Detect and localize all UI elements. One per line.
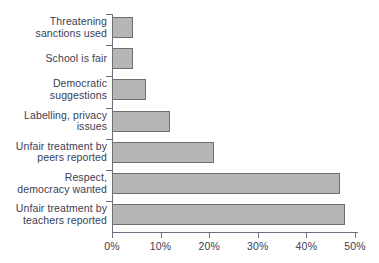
category-label: Unfair treatment by peers reported — [0, 141, 107, 164]
y-tick-mark — [106, 139, 113, 140]
bar — [112, 173, 340, 194]
category-label: Democratic suggestions — [0, 78, 107, 101]
x-tick-mark — [258, 233, 259, 238]
bar — [112, 17, 133, 38]
category-label: School is fair — [0, 53, 107, 65]
x-tick-label: 20% — [198, 240, 220, 252]
bar — [112, 142, 214, 163]
y-tick-mark — [106, 76, 113, 77]
x-tick-mark — [209, 233, 210, 238]
x-tick-mark — [355, 233, 356, 238]
y-tick-mark — [106, 108, 113, 109]
x-axis-line — [112, 232, 358, 233]
category-label: Threatening sanctions used — [0, 16, 107, 39]
bar — [112, 79, 146, 100]
x-tick-label: 10% — [150, 240, 172, 252]
category-label: Labelling, privacy issues — [0, 110, 107, 133]
x-tick-label: 0% — [104, 240, 120, 252]
x-tick-mark — [161, 233, 162, 238]
y-tick-mark — [106, 201, 113, 202]
bar — [112, 204, 345, 225]
y-tick-mark — [106, 170, 113, 171]
bar — [112, 48, 133, 69]
bar — [112, 111, 170, 132]
x-tick-label: 30% — [247, 240, 269, 252]
y-tick-mark — [106, 45, 113, 46]
x-tick-mark — [112, 233, 113, 238]
x-tick-label: 40% — [296, 240, 318, 252]
x-tick-mark — [306, 233, 307, 238]
horizontal-bar-chart: Threatening sanctions usedSchool is fair… — [0, 0, 379, 263]
category-label: Respect, democracy wanted — [0, 172, 107, 195]
category-label: Unfair treatment by teachers reported — [0, 203, 107, 226]
y-tick-mark — [106, 14, 113, 15]
x-tick-label: 50% — [344, 240, 366, 252]
